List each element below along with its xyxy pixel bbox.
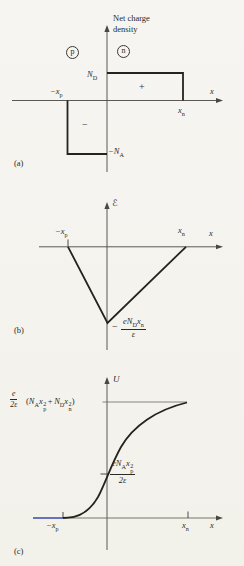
- mid-potential-formula: eNAx2p 2ε: [110, 459, 135, 485]
- net-charge-title-line2: density: [113, 24, 138, 34]
- field-min-denominator: ε: [132, 330, 135, 340]
- min-x-sub: n: [141, 321, 144, 328]
- xp-base-c: −x: [46, 520, 56, 530]
- xn-label-a: xn: [178, 105, 185, 117]
- max-prefactor-denominator: 2ε: [10, 400, 17, 409]
- mid-x-sub: p: [130, 469, 133, 474]
- x-axis-label-a: x: [210, 86, 214, 96]
- panel-c-tag: (c): [14, 546, 23, 556]
- field-min-minus: −: [112, 322, 118, 332]
- xp-label-a: −xp: [50, 86, 63, 98]
- plus-region-sign: +: [139, 82, 145, 92]
- field-min-fraction: eNDxn ε: [121, 317, 146, 339]
- donor-density-label: ND: [87, 69, 97, 81]
- xn-sub-a: n: [182, 110, 185, 117]
- max-x1-sub: p: [43, 407, 46, 412]
- y-axis-b-arrow: [104, 202, 109, 209]
- xp-sub-b: p: [65, 231, 68, 238]
- n-region-badge: n: [117, 45, 130, 58]
- max-potential-prefactor: e 2ε: [10, 390, 17, 409]
- xn-label-b: xn: [178, 225, 185, 237]
- na-base: −N: [108, 146, 119, 156]
- y-axis-c-arrow: [104, 377, 109, 384]
- field-triangle: [68, 247, 186, 323]
- potential-axis-label: U: [113, 374, 120, 384]
- xn-label-c: xn: [182, 520, 189, 532]
- field-min-numerator: eNDxn: [121, 317, 146, 330]
- panel-b-tag: (b): [14, 325, 24, 335]
- n-region-letter: n: [122, 47, 126, 55]
- xp-base-b: −x: [55, 226, 65, 236]
- xp-base-a: −x: [50, 86, 60, 96]
- x-axis-b-arrow: [216, 244, 223, 249]
- p-region-letter: p: [71, 48, 75, 56]
- xn-sub-c: n: [186, 525, 189, 532]
- x-axis-label-c: x: [210, 520, 214, 530]
- y-axis-a-arrow: [104, 25, 109, 32]
- na-sub: A: [119, 151, 123, 158]
- nd-sub: D: [93, 74, 97, 81]
- panel-a-tag: (a): [14, 158, 23, 168]
- mid-x-scripts: 2p: [130, 464, 133, 473]
- max-x2: x: [64, 396, 68, 406]
- net-charge-title-line1: Net charge: [113, 13, 150, 23]
- positive-charge-step: [107, 73, 183, 101]
- xp-label-c: −xp: [46, 520, 59, 532]
- max-prefactor-numerator: e: [10, 390, 17, 400]
- max-x1-scripts: 2p: [43, 402, 46, 411]
- xn-sub-b: n: [182, 230, 185, 237]
- max-close-paren: ): [72, 396, 75, 406]
- acceptor-density-label: −NA: [108, 146, 124, 158]
- mid-formula-numerator: eNAx2p: [110, 459, 135, 475]
- figure-page: Net charge density p n ND −xp + x xn − −…: [0, 0, 244, 566]
- mid-formula-denominator: 2ε: [119, 475, 127, 485]
- xp-sub-a: p: [60, 91, 63, 98]
- max-x2-sub: n: [69, 407, 72, 412]
- x-axis-label-b: x: [209, 228, 213, 238]
- x-axis-a-arrow: [216, 98, 223, 103]
- minus-region-sign: −: [82, 120, 88, 130]
- max-potential-formula: (NAx2p+NDx2n): [26, 396, 75, 411]
- mid-x: x: [126, 458, 130, 468]
- xp-label-b: −xp: [55, 226, 68, 238]
- x-axis-c-arrow: [216, 516, 223, 521]
- xp-sub-c: p: [56, 525, 59, 532]
- max-x1: x: [39, 396, 43, 406]
- max-plus: +: [48, 396, 53, 406]
- p-region-badge: p: [66, 46, 79, 59]
- efield-axis-label: ℰ: [112, 198, 117, 208]
